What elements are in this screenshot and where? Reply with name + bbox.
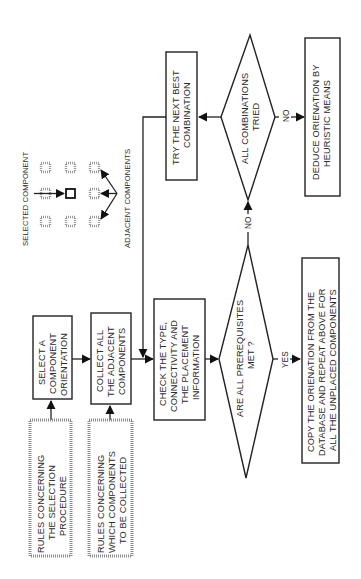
node-copy-orientation: COPY THE ORIENATION FROM THE DATABASE AN… <box>302 258 339 463</box>
svg-text:COLLECT ALL: COLLECT ALL <box>95 330 105 392</box>
adjacent-component <box>41 163 50 172</box>
flowchart-diagram: SELECTED COMPONENT ADJACENT COMPONENTS N… <box>0 0 361 579</box>
svg-text:RULES CONCERNING: RULES CONCERNING <box>36 455 46 553</box>
adjacent-component <box>90 189 99 198</box>
node-deduce-heuristic: DEDUCE ORIENATION BY HEURISTIC MEANS <box>305 38 340 196</box>
svg-text:CONNECTIVITY AND: CONNECTIVITY AND <box>169 320 179 412</box>
svg-text:RULES CONCERNING: RULES CONCERNING <box>96 455 106 553</box>
edge-label-combinations-no: NO <box>282 109 291 122</box>
svg-text:TO BE COLLECTED: TO BE COLLECTED <box>118 456 128 544</box>
adjacent-pointer-arrow <box>101 194 117 220</box>
adjacent-component <box>66 163 75 172</box>
svg-text:DATABASE AND REPEAT ABOVE FOR: DATABASE AND REPEAT ABOVE FOR <box>317 288 327 456</box>
svg-text:COMPONENTS: COMPONENTS <box>117 328 127 395</box>
svg-text:THE SELECTION: THE SELECTION <box>47 465 57 540</box>
adjacent-component <box>90 217 99 226</box>
node-check-info: CHECK THE TYPE, CONNECTIVITY AND THE PLA… <box>154 299 205 420</box>
node-select-orientation: SELECT A COMPONENT ORIENTATION <box>33 316 72 399</box>
node-rules-collection: RULES CONCERNING WHICH COMPONENTS TO BE … <box>89 420 132 556</box>
svg-text:WHICH COMPONENTS: WHICH COMPONENTS <box>107 451 117 553</box>
svg-text:TRIED: TRIED <box>251 102 261 131</box>
adjacent-components-label: ADJACENT COMPONENTS <box>123 149 132 248</box>
svg-text:COMPONENT: COMPONENT <box>48 333 58 394</box>
svg-text:ARE ALL PREREQUISITES: ARE ALL PREREQUISITES <box>235 300 245 417</box>
svg-text:HEURISTIC MEANS: HEURISTIC MEANS <box>322 80 332 167</box>
svg-text:COPY THE ORIENATION FROM THE: COPY THE ORIENATION FROM THE <box>306 292 316 452</box>
svg-text:ALL THE UNPLACED COMPONENTS: ALL THE UNPLACED COMPONENTS <box>328 289 338 451</box>
svg-text:CHECK THE TYPE,: CHECK THE TYPE, <box>158 322 168 406</box>
adjacent-component <box>66 217 75 226</box>
svg-text:THE ADJACENT: THE ADJACENT <box>106 326 116 397</box>
svg-text:COMBINATION: COMBINATION <box>182 82 192 148</box>
adjacent-component <box>41 217 50 226</box>
adjacent-pointer-arrow <box>101 170 117 194</box>
node-rules-selection: RULES CONCERNING THE SELECTION PROCEDURE <box>30 420 71 556</box>
svg-text:SELECT A: SELECT A <box>37 339 47 385</box>
svg-text:MET ?: MET ? <box>246 341 256 369</box>
svg-text:DEDUCE ORIENATION BY: DEDUCE ORIENATION BY <box>311 64 321 180</box>
selected-component-label: SELECTED COMPONENT <box>21 152 30 246</box>
svg-text:ORIENTATION: ORIENTATION <box>59 333 69 396</box>
node-prereq-decision: ARE ALL PREREQUISITES MET ? <box>219 245 273 478</box>
edge-label-prereq-no: NO <box>244 216 253 229</box>
node-combinations-decision: ALL COMBINATIONS TRIED <box>221 35 275 200</box>
adjacent-component <box>90 163 99 172</box>
svg-text:THE PLACEMENT: THE PLACEMENT <box>180 325 190 404</box>
svg-text:ALL COMBINATIONS: ALL COMBINATIONS <box>240 73 250 164</box>
component-grid-inset: SELECTED COMPONENT ADJACENT COMPONENTS <box>21 149 132 248</box>
edge-label-prereq-yes: YES <box>281 351 290 368</box>
svg-text:PROCEDURE: PROCEDURE <box>58 476 68 536</box>
node-collect-adjacent: COLLECT ALL THE ADJACENT COMPONENTS <box>91 313 131 404</box>
selected-component <box>66 189 75 198</box>
svg-text:INFORMATION: INFORMATION <box>191 335 201 400</box>
svg-text:TRY THE NEXT BEST: TRY THE NEXT BEST <box>171 70 181 165</box>
node-try-next: TRY THE NEXT BEST COMBINATION <box>166 52 197 180</box>
